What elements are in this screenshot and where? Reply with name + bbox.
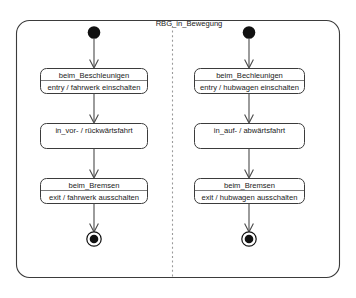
state-action: exit / fahrwerk ausschalten [49,193,139,202]
state-diagram-canvas: RBG_in_Bewegung beim_Beschleunigen entry… [0,0,356,298]
state-right-1: beim_Bechleunigen entry / hubwagen einsc… [195,69,305,94]
diagram-title: RBG_in_Bewegung [156,19,223,28]
state-name: in_auf- / abwärtsfahrt [214,126,286,135]
state-right-2: in_auf- / abwärtsfahrt [195,124,305,149]
state-diagram: RBG_in_Bewegung beim_Beschleunigen entry… [0,0,356,298]
state-action: entry / fahrwerk einschalten [48,83,141,92]
state-action: entry / hubwagen einschalten [200,83,299,92]
state-action: exit / hubwagen ausschalten [202,193,298,202]
state-name: in_vor- / rückwärtsfahrt [55,126,133,135]
initial-node-left [88,26,101,39]
final-node-right [245,235,254,244]
state-left-1: beim_Beschleunigen entry / fahrwerk eins… [41,69,148,94]
final-node-left [90,235,99,244]
state-name: beim_Bremsen [68,181,119,190]
state-left-2: in_vor- / rückwärtsfahrt [41,124,148,149]
initial-node-right [243,26,256,39]
state-name: beim_Beschleunigen [59,71,130,80]
state-right-3: beim_Bremsen exit / hubwagen ausschalten [195,179,305,204]
state-left-3: beim_Bremsen exit / fahrwerk ausschalten [41,179,148,204]
state-name: beim_Bechleunigen [216,71,283,80]
state-name: beim_Bremsen [224,181,275,190]
